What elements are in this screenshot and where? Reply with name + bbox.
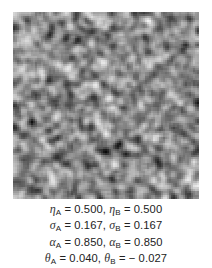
theta-a-value: 0.040	[69, 252, 98, 264]
equals: =	[121, 236, 134, 248]
equals: =	[56, 252, 69, 264]
figure-caption: ηA = 0.500, ηB = 0.500 σA = 0.167, σB = …	[0, 203, 212, 268]
caption-line-theta: θA = 0.040, θB = − 0.027	[0, 252, 212, 268]
equals: =	[61, 236, 74, 248]
alpha-b-value: 0.850	[134, 236, 163, 248]
eta-a-value: 0.500	[74, 203, 103, 215]
equals: =	[116, 252, 129, 264]
equals: =	[121, 219, 134, 231]
equals: =	[121, 203, 134, 215]
caption-line-sigma: σA = 0.167, σB = 0.167	[0, 219, 212, 235]
equals: =	[61, 203, 74, 215]
caption-line-alpha: αA = 0.850, αB = 0.850	[0, 236, 212, 252]
caption-line-eta: ηA = 0.500, ηB = 0.500	[0, 203, 212, 219]
eta-b-value: 0.500	[134, 203, 163, 215]
theta-b-value: − 0.027	[129, 252, 167, 264]
sigma-b-value: 0.167	[134, 219, 163, 231]
equals: =	[61, 219, 74, 231]
alpha-a-value: 0.850	[74, 236, 103, 248]
texture-sample-image	[13, 12, 199, 199]
sigma-a-value: 0.167	[74, 219, 103, 231]
